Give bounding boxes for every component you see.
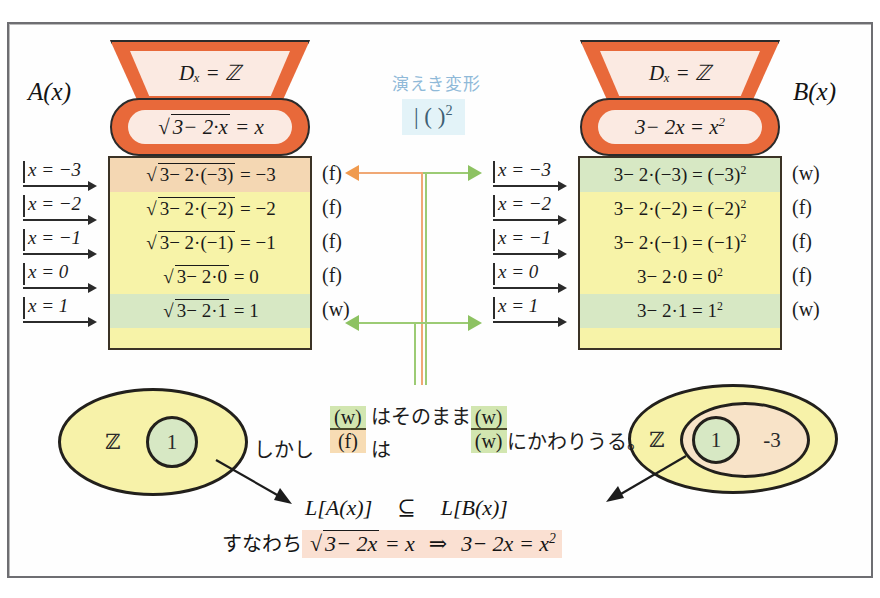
green-horizontal-line-top [423,172,469,174]
middle-text-mid: は [371,439,391,461]
x-input-row: x = 0 [492,262,576,296]
table-row: √3− 2·0 = 0 [110,260,310,294]
conclusion-right-set: L[B(x)] [441,495,508,520]
left-evaluation-table: √3− 2·(−3) = −3 √3− 2·(−2) = −2 √3− 2·(−… [108,156,312,350]
left-venn-solution-label: 1 [146,428,198,456]
x-input-label: x = 0 [498,261,538,283]
right-domain-label: Dₓ = ℤ [649,61,711,86]
right-row-exponent: 2 [717,300,723,313]
middle-explanation: (w)(f) はそのまま(w)(w)にかわりうる。 しかし は [254,408,647,455]
sqrt-icon: √3− 2·(−2) [144,198,235,219]
arrow-shaft [493,253,565,255]
tick-mark [493,161,495,183]
conclusion-right-equation: 3− 2x = x [461,531,549,556]
conclusion-line-2: すなわち√3− 2x = x⇒3− 2x = x2 [222,528,562,557]
x-input-row: x = 1 [492,296,576,330]
arrow-shaft [23,287,95,289]
green-left-arrowhead-icon [345,315,359,331]
left-row-tail: = −2 [235,198,275,219]
left-row-radicand: 3− 2·(−3) [158,163,236,185]
diagram-page: Dₓ = ℤ √3− 2·x = x A(x) Dₓ = ℤ 3− 2x = x… [0,0,880,598]
right-machine-name: B(x) [793,78,836,106]
x-input-label: x = 0 [28,261,68,283]
arrow-shaft [23,185,95,187]
x-input-label: x = 1 [498,295,538,317]
arrow-shaft [23,219,95,221]
x-input-label: x = −2 [498,193,551,215]
arrow-head-icon [88,181,97,191]
orange-left-arrowhead-icon [345,165,359,181]
tick-mark [23,195,25,217]
right-row-expr: 3− 2·1 = 1 [637,300,717,321]
green-horizontal-line-bottom-right [423,322,469,324]
conclusion-prefix: すなわち [222,533,302,555]
right-row-expr: 3− 2·(−2) = (−2) [614,198,741,219]
conclusion-line-1: L[A(x)] ⊆ L[B(x)] [305,495,508,521]
right-venn-solution-label: 1 [692,426,740,454]
arrow-head-icon [558,317,567,327]
tick-mark [493,263,495,285]
table-row: √3− 2·1 = 1 [110,294,310,328]
right-evaluation-table: 3− 2·(−3) = (−3)2 3− 2·(−2) = (−2)2 3− 2… [578,156,782,350]
sqrt-icon: √3− 2·(−3) [144,164,235,185]
right-machine-bar-inner: 3− 2x = x2 [598,110,762,144]
orange-horizontal-line-top [359,172,425,174]
sqrt-icon: √3− 2·0 [161,266,229,287]
table-row: √3− 2·(−3) = −3 [110,158,310,192]
x-input-row: x = −2 [492,194,576,228]
green-horizontal-line-bottom-left [359,322,425,324]
arrow-shaft [493,185,565,187]
arrow-shaft [493,321,565,323]
x-input-row: x = −1 [22,228,106,262]
x-input-label: x = 1 [28,295,68,317]
left-row-tail: = −1 [235,232,275,253]
table-row: √3− 2·(−2) = −2 [110,192,310,226]
right-equation-body: 3− 2x = x [635,115,719,139]
table-row: √3− 2·(−1) = −1 [110,226,310,260]
left-equation-radicand: 3− 2·x [171,114,230,139]
table-row: 3− 2·(−2) = (−2)2 [580,192,780,226]
left-equation: √3− 2·x = x [156,115,264,140]
right-row-expr: 3− 2·(−3) = (−3) [614,164,741,185]
right-machine-hopper: Dₓ = ℤ [580,40,780,102]
verdict-label: (w) [792,292,820,326]
verdict-label: (f) [792,224,820,258]
tick-mark [23,229,25,251]
frac2-denominator: (w) [471,428,507,452]
left-machine-bar-inner: √3− 2·x = x [128,110,292,144]
right-row-expr: 3− 2·(−1) = (−1) [614,232,741,253]
right-pointer-arrow [590,452,690,512]
right-venn-extra-label: -3 [750,426,794,454]
right-x-inputs: x = −3 x = −2 x = −1 x = 0 x = 1 [492,160,576,330]
green-right-arrowhead-icon [468,165,482,181]
right-row-exponent: 2 [740,232,746,245]
x-input-row: x = 0 [22,262,106,296]
arrow-head-icon [88,317,97,327]
right-row-expr: 3− 2·0 = 0 [637,266,717,287]
table-row: 3− 2·(−3) = (−3)2 [580,158,780,192]
table-bottom-pad [580,328,780,340]
right-row-exponent: 2 [717,266,723,279]
x-input-label: x = −3 [28,159,81,181]
table-row: 3− 2·0 = 02 [580,260,780,294]
arrow-shaft [493,287,565,289]
conclusion-eq-tail: = x [379,531,415,556]
green-vertical-line-lower [414,322,416,385]
x-input-row: x = −3 [22,160,106,194]
table-bottom-pad [110,328,310,340]
verdict-label: (f) [322,224,350,258]
tick-mark [493,297,495,319]
conclusion-right-exponent: 2 [549,531,556,546]
left-machine-hopper: Dₓ = ℤ [110,40,310,102]
middle-text-between: はそのまま [371,406,471,428]
left-machine: Dₓ = ℤ √3− 2·x = x [110,40,310,158]
tick-mark [23,161,25,183]
x-input-label: x = −1 [498,227,551,249]
right-row-exponent: 2 [740,164,746,177]
implies-symbol-icon: ⇒ [429,531,447,556]
frac-numerator: (w) [330,406,366,428]
tick-mark [493,229,495,251]
conclusion-sqrt-radicand: 3− 2x [323,530,379,556]
left-equation-tail: = x [230,115,264,139]
arrow-head-icon [558,283,567,293]
